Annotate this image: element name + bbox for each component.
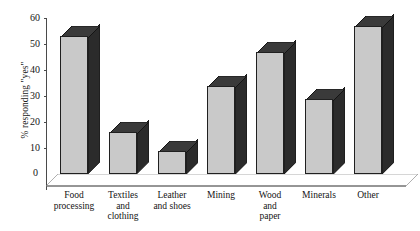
- y-axis-title: % responding "yes": [20, 20, 30, 180]
- bar-front-face: [256, 52, 284, 174]
- bar-front-face: [354, 26, 382, 174]
- bar-side-face: [284, 40, 296, 174]
- bar-side-face: [382, 14, 394, 174]
- bar: [207, 14, 235, 174]
- bar-top-face: [354, 14, 394, 26]
- y-tick-label: 20: [30, 115, 40, 128]
- y-tick: 30: [44, 96, 46, 97]
- bar: [158, 14, 186, 174]
- bar-side-face: [88, 24, 100, 174]
- x-axis-label-line: and: [240, 201, 300, 212]
- bar: [354, 14, 382, 174]
- y-tick: 20: [44, 122, 46, 123]
- bar-top-face: [256, 40, 296, 52]
- bar-top-face: [305, 87, 345, 99]
- y-tick-label-zero: 0: [33, 167, 38, 178]
- bar: [109, 14, 137, 174]
- x-axis-label-line: and shoes: [142, 201, 202, 212]
- bar: [305, 14, 333, 174]
- x-axis-label: Other: [338, 190, 398, 201]
- y-tick: 40: [44, 70, 46, 71]
- bar-top-face: [109, 120, 149, 132]
- y-tick-label: 30: [30, 89, 40, 102]
- x-axis-label-line: clothing: [93, 211, 153, 222]
- y-tick: 60: [44, 18, 46, 19]
- bar-top-face: [60, 24, 100, 36]
- bar: [60, 14, 88, 174]
- bar-side-face: [235, 74, 247, 174]
- y-tick: 50: [44, 44, 46, 45]
- bar-front-face: [305, 99, 333, 174]
- bar-top-face: [158, 139, 198, 151]
- y-tick-label: 40: [30, 63, 40, 76]
- bar-front-face: [60, 36, 88, 174]
- x-axis-label-line: Other: [338, 190, 398, 201]
- x-axis-label-line: paper: [240, 211, 300, 222]
- y-axis-line: [46, 18, 47, 190]
- y-tick-label: 50: [30, 37, 40, 50]
- bar-front-face: [109, 132, 137, 174]
- bar-front-face: [207, 86, 235, 174]
- bar-chart: % responding "yes" 1020304050600 Foodpro…: [0, 0, 420, 231]
- plot-area: 1020304050600: [46, 14, 414, 186]
- bar-top-face: [207, 74, 247, 86]
- y-tick-label: 10: [30, 141, 40, 154]
- y-tick-label: 60: [30, 11, 40, 24]
- y-tick: 10: [44, 148, 46, 149]
- bar: [256, 14, 284, 174]
- bar-front-face: [158, 151, 186, 174]
